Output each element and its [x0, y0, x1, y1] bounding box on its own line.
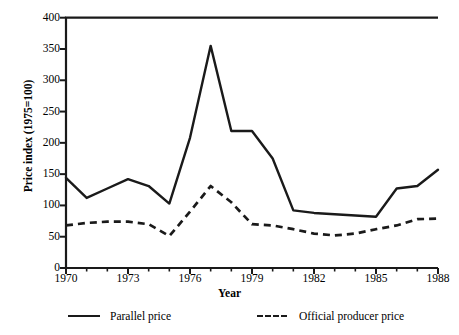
- legend-swatch-dashed-line-icon: [257, 310, 289, 322]
- chart-legend: Parallel price Official producer price: [0, 306, 459, 328]
- y-axis-tick-label: 250: [24, 106, 60, 118]
- legend-swatch-solid-line-icon: [68, 310, 100, 322]
- chart-figure: Price index (1975=100) 40035030025020015…: [0, 0, 459, 335]
- series-line-parallel-price: [66, 46, 438, 217]
- x-axis-tick-label: 1970: [36, 272, 96, 284]
- legend-label: Parallel price: [110, 310, 171, 322]
- y-axis-tick-label: 300: [24, 74, 60, 86]
- axis-frame: [66, 18, 438, 268]
- y-axis-tick-label: 100: [24, 199, 60, 211]
- y-axis-tick-label: 50: [24, 231, 60, 243]
- x-axis-tick-label: 1976: [160, 272, 220, 284]
- y-axis-tick-label: 200: [24, 137, 60, 149]
- legend-entry-parallel-price: Parallel price: [68, 306, 171, 326]
- legend-entry-official-producer-price: Official producer price: [257, 306, 404, 326]
- y-axis-tick-label: 150: [24, 168, 60, 180]
- series-line-official-producer-price: [66, 186, 438, 236]
- x-axis-tick-label: 1973: [98, 272, 158, 284]
- y-axis-tick-label: 400: [24, 12, 60, 24]
- legend-label: Official producer price: [299, 310, 404, 322]
- x-axis-tick-label: 1979: [222, 272, 282, 284]
- x-axis-tick-label: 1985: [346, 272, 406, 284]
- x-axis-tick-label: 1982: [284, 272, 344, 284]
- x-axis-tick-label: 1988: [408, 272, 459, 284]
- x-axis-title: Year: [0, 287, 459, 299]
- y-axis-tick-labels: 400350300250200150100500: [22, 0, 60, 300]
- x-axis-tick-labels: 1970197319761979198219851988: [0, 272, 459, 288]
- y-axis-tick-label: 350: [24, 43, 60, 55]
